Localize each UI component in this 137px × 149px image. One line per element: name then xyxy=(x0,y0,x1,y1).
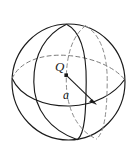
center-point-dot xyxy=(64,73,68,77)
meridian-right-back-far-arc xyxy=(86,26,108,139)
radius-vector-line xyxy=(66,75,94,102)
meridian-left-front-arc xyxy=(34,24,78,140)
center-point-label: Q xyxy=(55,60,64,73)
sphere-figure: Q a xyxy=(0,0,137,149)
meridian-left-back-arc xyxy=(67,24,87,140)
sphere-diagram-canvas xyxy=(0,0,137,149)
radius-length-label: a xyxy=(63,89,69,101)
sphere-outline-circle xyxy=(12,24,125,140)
